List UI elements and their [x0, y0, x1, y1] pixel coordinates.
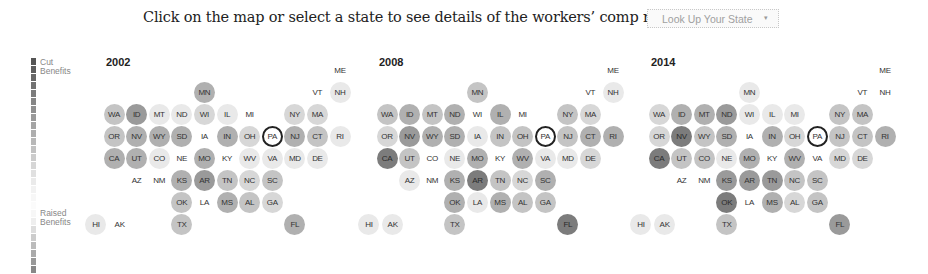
state-tile-md[interactable]: MD: [829, 148, 850, 169]
state-tile-oh[interactable]: OH: [784, 126, 805, 147]
state-tile-nv[interactable]: NV: [126, 126, 147, 147]
state-tile-md[interactable]: MD: [557, 148, 578, 169]
state-tile-nm[interactable]: NM: [694, 170, 715, 191]
state-tile-oh[interactable]: OH: [512, 126, 533, 147]
state-tile-nv[interactable]: NV: [671, 126, 692, 147]
state-tile-wi[interactable]: WI: [194, 104, 215, 125]
state-tile-sd[interactable]: SD: [716, 126, 737, 147]
state-tile-wi[interactable]: WI: [739, 104, 760, 125]
state-tile-ky[interactable]: KY: [762, 148, 783, 169]
state-tile-il[interactable]: IL: [490, 104, 511, 125]
state-tile-co[interactable]: CO: [694, 148, 715, 169]
state-tile-ky[interactable]: KY: [490, 148, 511, 169]
state-tile-va[interactable]: VA: [807, 148, 828, 169]
state-tile-de[interactable]: DE: [307, 148, 328, 169]
state-tile-ne[interactable]: NE: [716, 148, 737, 169]
state-tile-ms[interactable]: MS: [217, 192, 238, 213]
state-tile-ma[interactable]: MA: [852, 104, 873, 125]
state-tile-ga[interactable]: GA: [535, 192, 556, 213]
state-tile-tx[interactable]: TX: [716, 214, 737, 235]
state-tile-vt[interactable]: VT: [852, 82, 873, 103]
state-tile-pa[interactable]: PA: [535, 126, 556, 147]
state-tile-al[interactable]: AL: [239, 192, 260, 213]
state-tile-nh[interactable]: NH: [875, 82, 896, 103]
state-tile-ct[interactable]: CT: [307, 126, 328, 147]
state-tile-md[interactable]: MD: [284, 148, 305, 169]
state-tile-mt[interactable]: MT: [149, 104, 170, 125]
state-tile-ct[interactable]: CT: [852, 126, 873, 147]
state-tile-me[interactable]: ME: [603, 60, 624, 81]
state-tile-ne[interactable]: NE: [171, 148, 192, 169]
state-tile-me[interactable]: ME: [875, 60, 896, 81]
state-tile-vt[interactable]: VT: [580, 82, 601, 103]
state-tile-ny[interactable]: NY: [284, 104, 305, 125]
state-tile-wa[interactable]: WA: [377, 104, 398, 125]
state-tile-mo[interactable]: MO: [194, 148, 215, 169]
state-tile-sc[interactable]: SC: [535, 170, 556, 191]
state-tile-oh[interactable]: OH: [239, 126, 260, 147]
state-tile-ar[interactable]: AR: [194, 170, 215, 191]
state-tile-fl[interactable]: FL: [557, 214, 578, 235]
state-tile-ia[interactable]: IA: [739, 126, 760, 147]
state-tile-ia[interactable]: IA: [467, 126, 488, 147]
state-tile-wy[interactable]: WY: [694, 126, 715, 147]
state-tile-in[interactable]: IN: [762, 126, 783, 147]
state-tile-mt[interactable]: MT: [422, 104, 443, 125]
state-tile-ks[interactable]: KS: [444, 170, 465, 191]
state-tile-nh[interactable]: NH: [330, 82, 351, 103]
state-tile-tn[interactable]: TN: [490, 170, 511, 191]
state-tile-mo[interactable]: MO: [467, 148, 488, 169]
state-tile-ut[interactable]: UT: [399, 148, 420, 169]
state-tile-ks[interactable]: KS: [171, 170, 192, 191]
state-tile-ny[interactable]: NY: [829, 104, 850, 125]
state-tile-va[interactable]: VA: [262, 148, 283, 169]
state-tile-sd[interactable]: SD: [171, 126, 192, 147]
state-tile-ca[interactable]: CA: [104, 148, 125, 169]
state-tile-hi[interactable]: HI: [85, 214, 106, 235]
state-tile-ms[interactable]: MS: [762, 192, 783, 213]
state-tile-hi[interactable]: HI: [358, 214, 379, 235]
state-tile-ri[interactable]: RI: [875, 126, 896, 147]
state-tile-ma[interactable]: MA: [580, 104, 601, 125]
state-tile-mi[interactable]: MI: [239, 104, 260, 125]
state-tile-nm[interactable]: NM: [422, 170, 443, 191]
state-tile-ok[interactable]: OK: [444, 192, 465, 213]
state-tile-wi[interactable]: WI: [467, 104, 488, 125]
state-tile-vt[interactable]: VT: [307, 82, 328, 103]
state-tile-de[interactable]: DE: [580, 148, 601, 169]
state-tile-ma[interactable]: MA: [307, 104, 328, 125]
state-tile-tn[interactable]: TN: [762, 170, 783, 191]
state-tile-mn[interactable]: MN: [739, 82, 760, 103]
state-tile-nv[interactable]: NV: [399, 126, 420, 147]
state-tile-ky[interactable]: KY: [217, 148, 238, 169]
state-tile-az[interactable]: AZ: [399, 170, 420, 191]
state-tile-de[interactable]: DE: [852, 148, 873, 169]
state-tile-or[interactable]: OR: [104, 126, 125, 147]
state-tile-va[interactable]: VA: [535, 148, 556, 169]
state-tile-tx[interactable]: TX: [444, 214, 465, 235]
state-tile-in[interactable]: IN: [217, 126, 238, 147]
state-tile-mo[interactable]: MO: [739, 148, 760, 169]
state-tile-id[interactable]: ID: [671, 104, 692, 125]
state-tile-or[interactable]: OR: [377, 126, 398, 147]
state-tile-la[interactable]: LA: [467, 192, 488, 213]
state-tile-co[interactable]: CO: [422, 148, 443, 169]
state-tile-nj[interactable]: NJ: [829, 126, 850, 147]
state-tile-ia[interactable]: IA: [194, 126, 215, 147]
state-tile-ok[interactable]: OK: [716, 192, 737, 213]
state-tile-al[interactable]: AL: [512, 192, 533, 213]
state-tile-ar[interactable]: AR: [467, 170, 488, 191]
state-tile-ak[interactable]: AK: [109, 214, 130, 235]
state-tile-ri[interactable]: RI: [603, 126, 624, 147]
state-tile-wv[interactable]: WV: [239, 148, 260, 169]
state-tile-sd[interactable]: SD: [444, 126, 465, 147]
state-tile-wa[interactable]: WA: [104, 104, 125, 125]
state-tile-tx[interactable]: TX: [171, 214, 192, 235]
state-tile-il[interactable]: IL: [217, 104, 238, 125]
state-tile-al[interactable]: AL: [784, 192, 805, 213]
state-tile-nd[interactable]: ND: [444, 104, 465, 125]
state-tile-nh[interactable]: NH: [603, 82, 624, 103]
state-tile-pa[interactable]: PA: [262, 126, 283, 147]
state-tile-ca[interactable]: CA: [377, 148, 398, 169]
state-lookup-select[interactable]: Look Up Your State ▾: [647, 9, 779, 28]
